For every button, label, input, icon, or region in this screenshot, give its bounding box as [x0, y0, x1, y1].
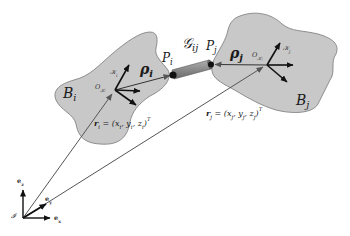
frame-origin-i-label: O𝒦ᵢ: [95, 84, 105, 94]
body-j-shape: [212, 13, 337, 112]
point-p-j-label: Pj: [206, 40, 217, 54]
axis-ex-label: ex: [54, 215, 61, 225]
rho-j-label: ρj: [230, 46, 243, 63]
body-j-label: Bj: [296, 93, 309, 110]
point-p-j: [208, 62, 214, 68]
frame-origin-j-label: O𝒦ⱼ: [252, 52, 263, 62]
rho-j-arrow: [215, 65, 267, 66]
position-r-i-label: ri = (xi, yi, zi)T: [94, 117, 150, 131]
axis-ey-label: ey: [45, 196, 52, 206]
point-p-i: [169, 71, 176, 78]
frame-k-i-label: 𝒦i: [110, 69, 117, 79]
body-i-label: Bi: [63, 86, 76, 103]
position-r-j-label: rj = (xj, yj, zj)T: [206, 107, 262, 121]
diagram-canvas: [0, 0, 350, 236]
frame-k-j-label: 𝒦j: [283, 45, 290, 55]
axis-ez-label: ez: [17, 178, 24, 188]
inertial-origin-label: 𝓘: [11, 213, 15, 220]
connector-gij-label: 𝒢ij: [182, 36, 198, 53]
connector-gij: [172, 60, 213, 79]
point-p-i-label: Pi: [162, 52, 173, 66]
rho-i-label: ρi: [140, 62, 153, 79]
